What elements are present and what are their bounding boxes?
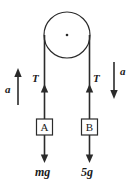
- acceleration-label-right: a: [120, 66, 126, 77]
- weight-arrowhead-right: [86, 155, 93, 164]
- acceleration-arrowhead-left: [14, 68, 21, 77]
- weight-label-left: mg: [35, 166, 50, 178]
- tension-label-right: T: [93, 73, 100, 84]
- tension-arrowhead-left: [41, 84, 48, 93]
- block-b-label: B: [82, 122, 98, 133]
- pulley-axle-dot: [66, 34, 69, 37]
- tension-label-left: T: [32, 73, 39, 84]
- block-a-label: A: [37, 122, 53, 133]
- physics-diagram-canvas: T T a a A B mg 5g: [0, 0, 133, 185]
- acceleration-arrowhead-right: [110, 90, 117, 99]
- weight-arrowhead-left: [41, 155, 48, 164]
- tension-arrowhead-right: [86, 84, 93, 93]
- weight-label-right: 5g: [81, 166, 93, 178]
- diagram-vector-layer: [0, 0, 133, 185]
- acceleration-label-left: a: [5, 84, 11, 95]
